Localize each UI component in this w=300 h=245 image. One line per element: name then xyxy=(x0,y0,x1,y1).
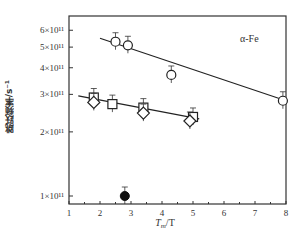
y-tick-label: 5×10¹¹ xyxy=(40,42,64,52)
x-tick-label: 6 xyxy=(222,208,227,218)
x-tick-label: 8 xyxy=(284,208,289,218)
y-axis-title: 跳跃频率/s⁻¹ xyxy=(2,80,14,133)
x-tick-label: 1 xyxy=(67,208,72,218)
y-axis-ticks: 1×10¹¹2×10¹¹3×10¹¹4×10¹¹5×10¹¹6×10¹¹ xyxy=(40,25,73,201)
annotation-alpha-fe: α-Fe xyxy=(240,33,259,44)
plot-frame xyxy=(69,16,286,204)
y-tick-label: 1×10¹¹ xyxy=(40,191,64,201)
filled-circle-marker xyxy=(120,192,129,201)
x-tick-label: 3 xyxy=(129,208,134,218)
x-tick-label: 2 xyxy=(98,208,103,218)
circle-marker xyxy=(167,70,176,79)
x-axis-ticks: 12345678 xyxy=(67,201,289,218)
square-marker xyxy=(108,100,117,109)
circle-marker xyxy=(123,41,132,50)
data-points xyxy=(88,33,288,204)
y-tick-label: 3×10¹¹ xyxy=(40,89,64,99)
chart-canvas: 12345678 1×10¹¹2×10¹¹3×10¹¹4×10¹¹5×10¹¹6… xyxy=(0,0,300,245)
circle-marker xyxy=(111,37,120,46)
x-tick-label: 5 xyxy=(191,208,196,218)
x-axis-title: Tm/T xyxy=(155,217,175,230)
circle-marker xyxy=(278,96,287,105)
y-tick-label: 2×10¹¹ xyxy=(40,127,64,137)
x-tick-label: 7 xyxy=(253,208,258,218)
y-tick-label: 4×10¹¹ xyxy=(40,63,64,73)
y-tick-label: 6×10¹¹ xyxy=(40,25,64,35)
